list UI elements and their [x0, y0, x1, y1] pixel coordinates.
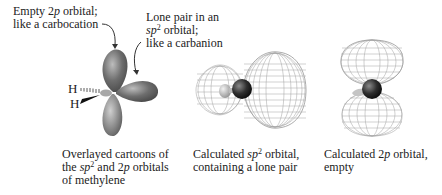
carbon-atom-2p: [362, 79, 382, 99]
arrow-lone-pair: [134, 42, 141, 72]
h-lobe: [100, 90, 112, 97]
p-lobe-top: [102, 50, 127, 92]
caption-cartoon: Overlayed cartoons of the sp2 and 2p orb…: [62, 148, 169, 187]
h-atom-label-top: H: [68, 82, 77, 95]
p-lobe-bottom: [102, 94, 122, 136]
arrow-empty-2p: [102, 24, 115, 46]
caption-sp2-calculated: Calculated sp2 orbital, containing a lon…: [193, 148, 299, 174]
cartoon-methylene: [80, 50, 158, 137]
caption-2p-calculated: Calculated 2p orbital, empty: [324, 148, 428, 174]
h-atom-label-bottom: H: [70, 97, 79, 110]
carbon-atom: [232, 79, 252, 99]
